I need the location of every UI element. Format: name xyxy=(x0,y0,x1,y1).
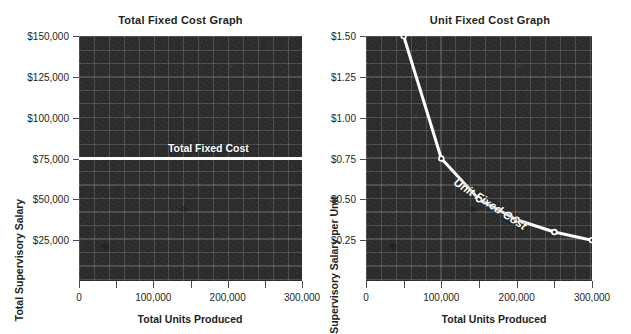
x-tick-label-0: 0 xyxy=(76,292,82,303)
y-tick-5 xyxy=(360,36,366,37)
x-tick-label-2: 100,000 xyxy=(423,292,459,303)
x-tick-label-0: 0 xyxy=(363,292,369,303)
x-tick-5 xyxy=(265,281,266,288)
y-tick-5 xyxy=(73,36,79,37)
x-tick-3 xyxy=(191,281,192,288)
y-tick-label-3: $1.00 xyxy=(315,112,356,123)
x-tick-label-6: 300,000 xyxy=(574,292,610,303)
y-tick-label-0: $0.25 xyxy=(315,235,356,246)
data-point-marker-4 xyxy=(552,230,557,235)
y-tick-3 xyxy=(73,118,79,119)
x-tick-label-4: 200,000 xyxy=(499,292,535,303)
y-tick-0 xyxy=(73,240,79,241)
x-tick-1 xyxy=(404,281,405,288)
y-tick-label-2: $0.75 xyxy=(315,153,356,164)
y-axis-title-total-supervisory-salary: Total Supervisory Salary xyxy=(13,199,25,321)
unit-fixed-cost-curve xyxy=(366,36,592,281)
y-tick-label-1: $0.50 xyxy=(315,194,356,205)
y-tick-1 xyxy=(360,199,366,200)
unit-fixed-cost-chart-panel: Unit Fixed Cost Graph Supervisory Salary… xyxy=(315,0,631,333)
y-tick-label-3: $100,000 xyxy=(0,112,69,123)
x-tick-0 xyxy=(366,281,367,288)
x-tick-2 xyxy=(441,281,442,288)
x-axis-title-total-units-produced: Total Units Produced xyxy=(138,313,243,325)
x-tick-5 xyxy=(554,281,555,288)
total-fixed-cost-chart-panel: Total Fixed Cost Graph Total Supervisory… xyxy=(0,0,315,333)
plot-area-total-fixed-cost: Total Fixed Cost xyxy=(79,36,302,281)
y-tick-label-0: $25,000 xyxy=(0,235,69,246)
y-tick-0 xyxy=(360,240,366,241)
x-tick-3 xyxy=(479,281,480,288)
x-tick-1 xyxy=(116,281,117,288)
x-tick-6 xyxy=(302,281,303,288)
y-tick-label-2: $75,000 xyxy=(0,153,69,164)
y-tick-4 xyxy=(73,77,79,78)
chart-title-total-fixed-cost: Total Fixed Cost Graph xyxy=(0,14,315,26)
x-tick-6 xyxy=(592,281,593,288)
data-point-marker-1 xyxy=(439,156,444,161)
y-tick-3 xyxy=(360,118,366,119)
series-label-total-fixed-cost: Total Fixed Cost xyxy=(168,142,249,154)
data-point-marker-0 xyxy=(401,36,406,38)
y-axis-title-supervisory-salary-per-unit: Supervisory Salary per Unit xyxy=(328,196,340,334)
y-tick-label-5: $1.50 xyxy=(315,31,356,42)
y-tick-label-1: $50,000 xyxy=(0,194,69,205)
x-axis-title-total-units-produced-right: Total Units Produced xyxy=(442,313,547,325)
total-fixed-cost-line xyxy=(79,157,302,160)
chart-title-unit-fixed-cost: Unit Fixed Cost Graph xyxy=(315,14,631,26)
y-tick-4 xyxy=(360,77,366,78)
plot-area-unit-fixed-cost: Unit Fixed Cost xyxy=(366,36,592,281)
data-point-marker-5 xyxy=(590,238,592,243)
y-tick-label-4: $1.25 xyxy=(315,71,356,82)
x-tick-label-4: 200,000 xyxy=(210,292,246,303)
x-tick-2 xyxy=(153,281,154,288)
x-tick-4 xyxy=(228,281,229,288)
x-tick-0 xyxy=(79,281,80,288)
x-tick-4 xyxy=(517,281,518,288)
y-tick-1 xyxy=(73,199,79,200)
y-tick-2 xyxy=(360,159,366,160)
y-tick-label-4: $125,000 xyxy=(0,71,69,82)
y-tick-label-5: $150,000 xyxy=(0,31,69,42)
y-tick-2 xyxy=(73,159,79,160)
x-tick-label-2: 100,000 xyxy=(135,292,171,303)
